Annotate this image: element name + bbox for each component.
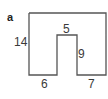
notch-height-label: 9 — [78, 48, 85, 60]
bottom-right-label: 7 — [88, 78, 95, 90]
notch-width-label: 5 — [63, 23, 70, 35]
left-height-label: 14 — [14, 36, 27, 48]
bottom-left-label: 6 — [41, 78, 48, 90]
